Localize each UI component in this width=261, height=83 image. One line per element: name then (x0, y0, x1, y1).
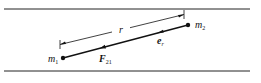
connecting-line (63, 25, 188, 58)
gravitation-diagram: r m1 m2 F21 er (0, 0, 261, 83)
distance-label: r (119, 24, 123, 35)
mass1-dot (61, 56, 65, 60)
mass1-label: m1 (48, 53, 58, 65)
distance-dimension: r (60, 10, 184, 49)
mass2-dot (186, 23, 190, 27)
force-arrowhead (100, 45, 106, 49)
unit-vector-label: er (157, 35, 164, 47)
unit-vector-arrowhead (157, 30, 164, 33)
mass2-label: m2 (195, 19, 205, 31)
force-label: F21 (98, 53, 112, 65)
